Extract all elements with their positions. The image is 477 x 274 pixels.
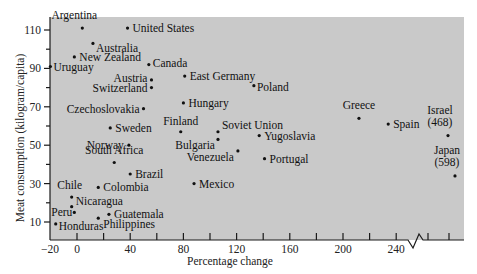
point-label: South Africa: [85, 144, 143, 156]
x-tick-label: 80: [178, 243, 190, 255]
data-point: Sweden: [109, 122, 152, 134]
point-marker: [216, 130, 219, 133]
point-marker: [252, 84, 255, 87]
point-label: Uruguay: [53, 61, 93, 74]
point-label: Israel: [427, 104, 453, 116]
point-marker: [182, 101, 185, 104]
point-marker: [142, 107, 145, 110]
x-tick-label: 40: [124, 243, 136, 255]
x-axis-title: Percentage change: [187, 255, 273, 268]
x-tick-label: 120: [228, 243, 246, 255]
point-label: Philippines: [103, 218, 155, 231]
point-label: Brazil: [135, 168, 163, 180]
point-label: Chile: [57, 179, 82, 191]
point-marker: [54, 222, 57, 225]
point-marker: [236, 149, 239, 152]
point-label: Yugoslavia: [264, 130, 315, 143]
data-point: Portugal: [263, 153, 309, 166]
data-point: Philippines: [97, 217, 156, 232]
point-marker: [150, 78, 153, 81]
point-label: Peru: [51, 206, 72, 218]
data-point: Switzerland: [93, 82, 154, 94]
y-tick-label: 70: [30, 101, 42, 113]
point-label: Honduras: [59, 220, 104, 232]
point-label: Hungary: [188, 97, 228, 110]
x-tick-label: −20: [41, 243, 59, 255]
point-label: Nicaragua: [76, 195, 123, 208]
point-label: Greece: [343, 99, 376, 111]
point-marker: [357, 117, 360, 120]
point-label: Czechoslovakia: [67, 103, 140, 115]
y-tick-label: 10: [30, 216, 42, 228]
data-point: Honduras: [54, 220, 104, 232]
x-tick-label: 160: [281, 243, 299, 255]
point-label: United States: [133, 22, 195, 34]
point-label: Venezuela: [187, 151, 234, 163]
x-tick-label: 0: [74, 243, 80, 255]
data-point: Uruguay: [49, 61, 94, 74]
point-marker: [81, 26, 84, 29]
point-marker: [70, 195, 73, 198]
point-marker: [258, 134, 261, 137]
x-tick-label: 240: [388, 243, 406, 255]
point-marker: [91, 42, 94, 45]
point-marker: [97, 186, 100, 189]
data-point: Czechoslovakia: [67, 103, 145, 115]
point-label: Portugal: [270, 153, 309, 166]
point-marker: [109, 126, 112, 129]
point-marker: [263, 157, 266, 160]
y-axis: 1030507090110: [24, 17, 50, 240]
point-marker: [192, 182, 195, 185]
point-label-value: (468): [428, 116, 453, 129]
data-point: Mexico: [192, 178, 234, 190]
point-marker: [73, 211, 76, 214]
point-label: Mexico: [199, 178, 234, 190]
point-label: Colombia: [103, 181, 148, 193]
point-marker: [129, 172, 132, 175]
y-axis-title: Meat consumption (kilogram/capita): [14, 54, 27, 223]
data-point: Canada: [147, 57, 187, 69]
data-point: Poland: [252, 81, 289, 93]
point-label: Canada: [153, 57, 187, 69]
point-label: Poland: [257, 81, 289, 93]
point-label: Switzerland: [93, 82, 148, 94]
point-marker: [183, 74, 186, 77]
point-label: Sweden: [115, 122, 152, 134]
data-point: Hungary: [182, 97, 229, 110]
y-tick-label: 90: [30, 62, 42, 74]
y-tick-label: 30: [30, 178, 42, 190]
data-point: United States: [126, 22, 195, 34]
data-point: Nicaragua: [70, 195, 123, 209]
point-marker: [147, 63, 150, 66]
point-marker: [150, 86, 153, 89]
data-point: East Germany: [183, 70, 255, 83]
data-point: Yugoslavia: [258, 130, 316, 143]
point-marker: [387, 122, 390, 125]
y-tick-label: 50: [30, 139, 42, 151]
scatter-chart: 1030507090110 −2004080120160200240 Argen…: [0, 0, 477, 274]
point-marker: [446, 134, 449, 137]
point-label: Spain: [393, 118, 419, 131]
point-marker: [216, 138, 219, 141]
point-label: East Germany: [190, 70, 256, 83]
data-point: Peru: [51, 206, 76, 218]
point-marker: [126, 26, 129, 29]
data-point: Venezuela: [187, 149, 240, 163]
y-tick-label: 110: [24, 24, 41, 36]
point-marker: [113, 161, 116, 164]
point-label: Finland: [163, 115, 198, 127]
point-marker: [73, 55, 76, 58]
point-marker: [453, 174, 456, 177]
point-marker: [107, 213, 110, 216]
point-marker: [179, 130, 182, 133]
point-label-value: (598): [435, 156, 460, 169]
point-label: Argentina: [51, 9, 97, 22]
point-marker: [49, 65, 52, 68]
data-point: Colombia: [97, 181, 149, 193]
x-tick-label: 200: [334, 243, 352, 255]
